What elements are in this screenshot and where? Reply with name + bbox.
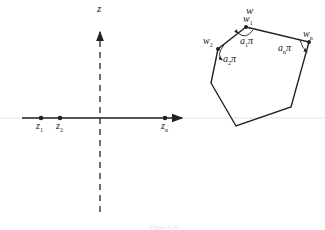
label-w1: w1 — [243, 13, 253, 26]
label-zn: zn — [161, 120, 168, 133]
label-z2: z2 — [56, 120, 63, 133]
label-wn: wn — [303, 28, 313, 41]
angle-label-1: a1π — [240, 35, 253, 48]
angle-label-n: anπ — [278, 42, 291, 55]
figure-caption: Figure 4.16 — [150, 224, 178, 230]
label-w2: w2 — [203, 35, 213, 48]
label-z1: z1 — [36, 120, 43, 133]
z-plane-title: z — [97, 2, 101, 14]
angle-label-2: a2π — [223, 53, 236, 66]
